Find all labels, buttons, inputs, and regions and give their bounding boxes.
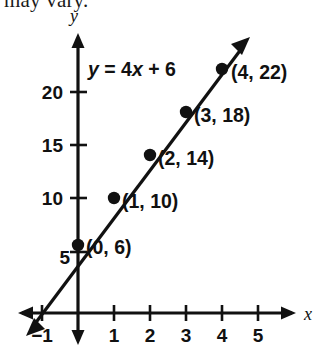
y-axis-up-arrow-icon <box>72 33 85 48</box>
coordinate-plane: −1 1 2 3 4 5 20 15 10 5 y x <box>0 0 325 348</box>
x-tick-label-3: 3 <box>181 325 192 346</box>
equation-tail: + 6 <box>143 58 176 80</box>
data-point-labels: (0, 6) (1, 10) (2, 14) (3, 18) (4, 22) <box>86 61 287 258</box>
y-tick-labels: 20 15 10 5 <box>42 82 71 268</box>
y-axis-down-arrow-icon <box>72 330 85 345</box>
x-axis-left-arrow-icon <box>18 307 33 320</box>
y-axis <box>72 33 85 345</box>
data-point-label-3-18: (3, 18) <box>194 104 250 126</box>
data-point-label-0-6: (0, 6) <box>86 236 132 258</box>
x-tick-label-4: 4 <box>217 325 228 346</box>
x-tick-labels: −1 1 2 3 4 5 <box>31 325 264 346</box>
line-segment <box>34 48 242 325</box>
data-point-label-4-22: (4, 22) <box>231 61 287 83</box>
x-tick-label-5: 5 <box>253 325 264 346</box>
x-axis-label: x <box>303 304 312 324</box>
equation-label: y = 4x + 6 <box>87 58 176 80</box>
line-upper-arrow-icon <box>231 37 250 55</box>
graph-figure: may vary. <box>0 0 325 348</box>
y-tick-label-20: 5 <box>59 247 70 268</box>
data-point-0-6 <box>72 239 84 251</box>
data-point-label-2-14: (2, 14) <box>158 147 214 169</box>
x-axis-right-arrow-icon <box>281 307 296 320</box>
x-tick-label-1: 1 <box>109 325 120 346</box>
x-tick-label-2: 2 <box>145 325 156 346</box>
data-point-4-22 <box>216 63 228 75</box>
y-tick-label-5: 20 <box>42 82 63 103</box>
y-tick-label-15: 15 <box>42 135 64 156</box>
data-point-label-1-10: (1, 10) <box>122 190 178 212</box>
data-point-3-18 <box>180 106 192 118</box>
y-axis-label: y <box>68 6 78 26</box>
y-tick-label-10: 10 <box>42 188 63 209</box>
data-point-1-10 <box>108 192 120 204</box>
data-point-2-14 <box>144 149 156 161</box>
equation-operator: = 4 <box>99 58 132 80</box>
x-axis <box>18 307 296 320</box>
